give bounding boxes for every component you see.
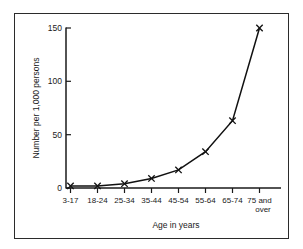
data-line — [71, 28, 260, 186]
x-tick-label-2: 25-34 — [114, 196, 135, 205]
x-tick-label-1: 18-24 — [87, 196, 108, 205]
x-tick-label-3: 35-44 — [141, 196, 162, 205]
y-axis-title-group: Number per 1,000 persons — [31, 57, 41, 158]
x-axis-group: 3-17 18-24 25-34 35-44 45-54 55-64 65-74… — [62, 188, 281, 230]
x-tick-label-4: 45-54 — [168, 196, 189, 205]
y-tick-label-100: 100 — [48, 76, 62, 86]
data-series-group — [67, 25, 262, 189]
y-axis-title: Number per 1,000 persons — [31, 57, 41, 158]
x-tick-label-6: 65-74 — [222, 196, 243, 205]
y-tick-label-0: 0 — [57, 183, 62, 193]
y-axis-group: 150 100 50 0 — [48, 23, 71, 193]
y-tick-label-50: 50 — [53, 130, 63, 140]
x-tick-label-0: 3-17 — [62, 196, 79, 205]
x-tick-label-7-line2: over — [255, 205, 271, 214]
figure-root: 150 100 50 0 Number per 1,000 persons 3-… — [0, 0, 303, 249]
x-tick-label-7-line1: 75 and — [247, 196, 271, 205]
x-axis-title: Age in years — [152, 220, 199, 230]
data-marker-5 — [202, 149, 208, 155]
x-tick-label-5: 55-64 — [195, 196, 216, 205]
y-tick-label-150: 150 — [48, 23, 62, 33]
line-chart: 150 100 50 0 Number per 1,000 persons 3-… — [0, 0, 303, 249]
